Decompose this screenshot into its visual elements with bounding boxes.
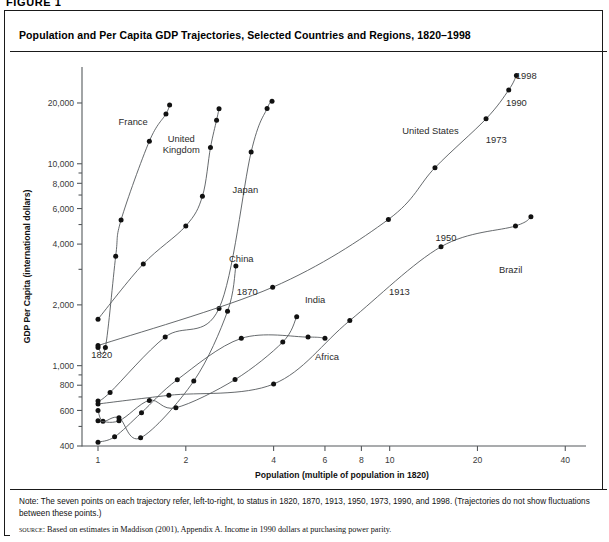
data-point — [200, 194, 205, 199]
y-tick-label: 4,000 — [52, 239, 74, 249]
data-point — [166, 393, 171, 398]
x-tick-label: 10 — [385, 455, 395, 465]
data-point — [294, 314, 299, 319]
trajectory-line — [98, 217, 531, 404]
series-group: FranceUnitedKingdomJapanChinaIndiaAfrica… — [96, 73, 534, 445]
data-point — [119, 217, 124, 222]
x-tick-label: 6 — [323, 455, 328, 465]
data-point — [116, 418, 121, 423]
series-united-states: United States — [96, 73, 519, 348]
data-point — [528, 214, 533, 219]
data-point — [265, 106, 270, 111]
x-tick-label: 1 — [96, 455, 101, 465]
series-label: Brazil — [499, 264, 522, 275]
plot-area: 4006008001,0002,0004,0006,0008,00010,000… — [0, 0, 609, 542]
data-point — [233, 377, 238, 382]
data-point — [280, 340, 285, 345]
series-label: Japan — [233, 184, 259, 195]
data-point — [173, 405, 178, 410]
year-annotation: 1913 — [389, 286, 410, 297]
data-point — [271, 382, 276, 387]
data-point — [96, 418, 101, 423]
data-point — [183, 223, 188, 228]
data-point — [513, 223, 518, 228]
series-france: France — [96, 102, 173, 354]
data-point — [163, 334, 168, 339]
x-tick-label: 20 — [473, 455, 483, 465]
series-china: China — [96, 253, 255, 440]
data-point — [249, 150, 254, 155]
y-tick-label: 6,000 — [52, 204, 74, 214]
year-annotation: 1820 — [91, 349, 112, 360]
series-united-kingdom: UnitedKingdom — [96, 106, 222, 321]
data-point — [175, 377, 180, 382]
data-point — [217, 106, 222, 111]
data-point — [167, 102, 172, 107]
year-annotation: 1990 — [506, 97, 527, 108]
year-annotation: 1950 — [436, 232, 457, 243]
data-point — [138, 435, 143, 440]
data-point — [96, 343, 101, 348]
x-tick-label: 4 — [271, 455, 276, 465]
data-point — [386, 217, 391, 222]
series-brazil: Brazil — [96, 214, 534, 406]
data-point — [147, 398, 152, 403]
x-tick-label: 40 — [560, 455, 570, 465]
data-point — [141, 261, 146, 266]
data-point — [306, 335, 311, 340]
data-point — [112, 434, 117, 439]
y-tick-label: 2,000 — [52, 300, 74, 310]
year-annotation: 1998 — [516, 70, 537, 81]
data-point — [139, 410, 144, 415]
series-india: India — [96, 294, 327, 424]
x-tick-label: 2 — [183, 455, 188, 465]
data-point — [147, 139, 152, 144]
data-point — [506, 87, 511, 92]
data-point — [96, 401, 101, 406]
series-label: United States — [402, 125, 459, 136]
series-label: China — [229, 253, 254, 264]
annotations-group: 1820187019131950197319901998 — [91, 70, 536, 360]
data-point — [270, 285, 275, 290]
series-label: Africa — [315, 351, 340, 362]
data-point — [322, 336, 327, 341]
y-tick-label: 1,000 — [52, 361, 74, 371]
data-point — [225, 309, 230, 314]
data-point — [270, 99, 275, 104]
x-tick-label: 8 — [359, 455, 364, 465]
data-point — [108, 390, 113, 395]
y-tick-label: 20,000 — [48, 98, 75, 108]
data-point — [96, 317, 101, 322]
data-point — [439, 244, 444, 249]
x-axis-title: Population (multiple of population in 18… — [255, 470, 429, 480]
data-point — [113, 254, 118, 259]
series-label: UnitedKingdom — [163, 133, 200, 155]
data-point — [239, 336, 244, 341]
y-tick-label: 800 — [60, 380, 75, 390]
trajectory-line — [98, 105, 170, 354]
data-point — [163, 111, 168, 116]
trajectory-chart: 4006008001,0002,0004,0006,0008,00010,000… — [0, 0, 609, 542]
y-axis-title: GDP Per Capita (international dollars) — [22, 190, 32, 344]
data-point — [484, 116, 489, 121]
trajectory-line — [98, 335, 325, 442]
trajectory-line — [98, 76, 516, 346]
data-point — [96, 440, 101, 445]
y-tick-label: 600 — [60, 406, 75, 416]
trajectory-line — [98, 109, 219, 319]
data-point — [208, 145, 213, 150]
data-point — [96, 408, 101, 413]
y-tick-label: 10,000 — [48, 159, 75, 169]
data-point — [191, 379, 196, 384]
y-tick-label: 8,000 — [52, 179, 74, 189]
year-annotation: 1870 — [237, 286, 258, 297]
y-tick-label: 400 — [60, 441, 75, 451]
series-label: France — [119, 116, 148, 127]
data-point — [347, 318, 352, 323]
year-annotation: 1973 — [486, 134, 507, 145]
data-point — [214, 118, 219, 123]
series-label: India — [305, 294, 326, 305]
data-point — [432, 165, 437, 170]
trajectory-line — [98, 317, 297, 423]
trajectory-line — [98, 266, 236, 439]
